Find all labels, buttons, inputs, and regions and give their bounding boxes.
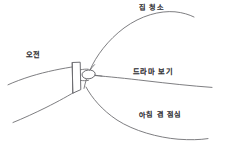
mind-map-drawing [0, 0, 227, 152]
branch-cleaning-stroke [90, 12, 194, 70]
branch-am-lower-stroke [13, 90, 79, 123]
branch-label-brunch: 아침 겸 점심 [139, 110, 182, 119]
center-hub-rectangle-edge [72, 63, 73, 94]
branch-label-am: 오전 [26, 51, 41, 58]
branch-am-strokes [8, 67, 79, 123]
center-hub-connector-top [80, 69, 88, 70]
center-hub-ellipse [82, 69, 96, 79]
branch-drama-stroke [95, 76, 213, 88]
sketch-canvas: 오전 집 청소 드라마 보기 아침 겸 점심 [0, 0, 227, 152]
center-hub-rectangle [72, 62, 81, 93]
branch-label-drama: 드라마 보기 [133, 68, 173, 75]
branch-cleaning-strokes [90, 12, 194, 70]
branch-label-cleaning: 집 청소 [139, 4, 164, 12]
branch-am-upper-stroke [8, 67, 76, 85]
branch-drama-strokes [95, 76, 213, 88]
